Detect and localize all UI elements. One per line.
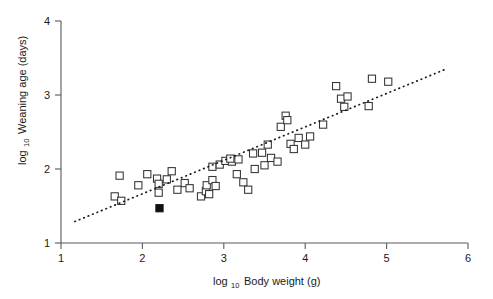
x-tick-label: 4 [302,252,308,264]
x-axis-title-main: Body weight (g) [244,275,320,287]
data-point [277,123,284,130]
data-point [186,185,193,192]
data-point [290,145,297,152]
data-point [163,176,170,183]
data-point [333,83,340,90]
x-axis-title-prefix: log [213,275,228,287]
y-axis-title-main: Weaning age (days) [16,36,28,134]
x-tick-label: 5 [384,252,390,264]
trend-line [75,68,448,221]
y-axis-ticks: 1234 [44,15,61,249]
axes: 123456 1234 [44,15,471,264]
data-point [235,156,242,163]
x-tick-label: 3 [221,252,227,264]
data-point [174,186,181,193]
data-point [227,155,234,162]
data-point [365,103,372,110]
y-tick-label: 2 [44,163,50,175]
data-point [274,158,281,165]
data-point [240,179,247,186]
data-point [368,75,375,82]
figure-container: 123456 1234 log 10 Body weight (g) log 1… [0,0,493,299]
data-point [144,171,151,178]
data-point [250,150,257,157]
scatter-plot: 123456 1234 log 10 Body weight (g) log 1… [0,0,493,299]
y-axis-title-prefix: log [16,150,28,165]
data-point [320,121,327,128]
data-point [341,103,348,110]
data-point [212,182,219,189]
data-point [245,186,252,193]
x-tick-label: 6 [465,252,471,264]
y-tick-label: 4 [44,15,50,27]
x-axis-title-subscript: 10 [231,281,239,290]
data-point [344,93,351,100]
data-point [233,171,240,178]
data-point [116,172,123,179]
x-axis-ticks: 123456 [58,243,471,264]
data-point [206,191,213,198]
data-point [168,168,175,175]
data-point-highlighted [156,205,163,212]
y-axis-title-subscript: 10 [22,139,31,147]
data-point [261,162,268,169]
y-tick-label: 3 [44,89,50,101]
x-tick-label: 2 [139,252,145,264]
data-point [258,149,265,156]
y-tick-label: 1 [44,237,50,249]
data-point [135,182,142,189]
y-axis-title: log 10 Weaning age (days) [16,36,31,165]
data-point [155,189,162,196]
data-point [385,78,392,85]
x-tick-label: 1 [58,252,64,264]
data-point [295,134,302,141]
data-point [251,165,258,172]
x-axis-title: log 10 Body weight (g) [213,275,320,290]
data-point [302,141,309,148]
data-point [306,133,313,140]
data-point [284,117,291,124]
data-markers [111,75,392,212]
